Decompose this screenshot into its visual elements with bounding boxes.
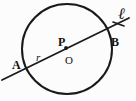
- label-radius-r: r: [36, 52, 40, 63]
- geometry-figure: A B P O r ℓ: [0, 0, 136, 101]
- label-center-o: O: [65, 55, 73, 66]
- label-point-p: P: [58, 36, 65, 48]
- label-point-b: B: [111, 36, 119, 48]
- geometry-canvas: [0, 0, 136, 101]
- label-point-a: A: [12, 59, 21, 71]
- label-line-l: ℓ: [118, 6, 125, 22]
